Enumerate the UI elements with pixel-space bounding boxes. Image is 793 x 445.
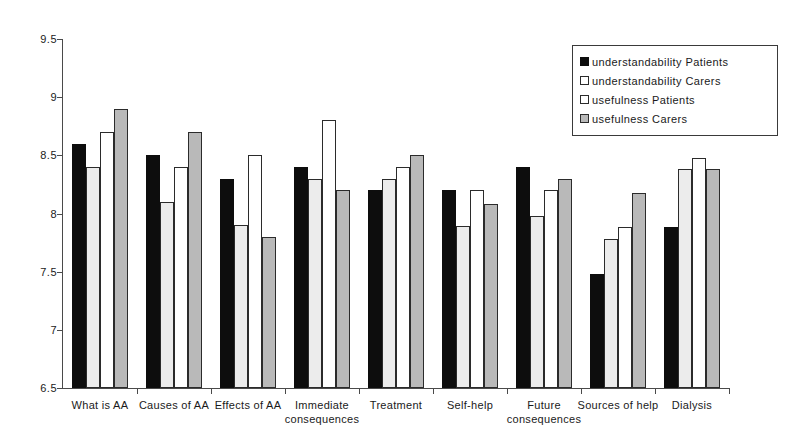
bar xyxy=(442,190,456,388)
legend-label: usefulness Patients xyxy=(592,94,695,106)
bar xyxy=(530,216,544,388)
legend-label: usefulness Carers xyxy=(592,113,687,125)
bar xyxy=(188,132,202,388)
legend-item: understandability Patients xyxy=(580,52,770,71)
legend-item: usefulness Patients xyxy=(580,90,770,109)
bar xyxy=(86,167,100,388)
x-axis-tick xyxy=(729,388,730,394)
legend-swatch-icon xyxy=(580,114,589,123)
chart-legend: understandability Patients understandabi… xyxy=(572,45,778,136)
y-axis-tick xyxy=(57,97,63,98)
bar xyxy=(100,132,114,388)
y-axis-tick-label: 8 xyxy=(50,208,57,220)
bar xyxy=(322,120,336,388)
bar xyxy=(382,179,396,388)
bar xyxy=(174,167,188,388)
y-axis-tick-label: 8.5 xyxy=(40,149,57,161)
y-axis-tick xyxy=(57,272,63,273)
bar xyxy=(632,193,646,388)
x-axis-tick xyxy=(285,388,286,394)
bar-group xyxy=(146,39,202,388)
y-axis-tick-label: 9.5 xyxy=(40,33,57,45)
bar-chart: 9.598.587.576.5 understandability Patien… xyxy=(0,0,793,445)
bar xyxy=(484,204,498,388)
bar xyxy=(368,190,382,388)
bar-group xyxy=(72,39,128,388)
x-axis-tick xyxy=(137,388,138,394)
bar xyxy=(160,202,174,388)
x-axis-tick xyxy=(359,388,360,394)
bar xyxy=(294,167,308,388)
bar xyxy=(678,169,692,388)
bar xyxy=(220,179,234,388)
bar xyxy=(146,155,160,388)
bar xyxy=(234,225,248,388)
bar xyxy=(692,158,706,388)
bar-group xyxy=(294,39,350,388)
bar xyxy=(72,144,86,388)
bar xyxy=(590,274,604,388)
bar-group xyxy=(368,39,424,388)
bar xyxy=(336,190,350,388)
x-axis-tick xyxy=(433,388,434,394)
bar-group xyxy=(516,39,572,388)
bar xyxy=(618,227,632,388)
bar xyxy=(706,169,720,388)
y-axis-tick-label: 9 xyxy=(50,91,57,103)
bar xyxy=(308,179,322,388)
legend-item: understandability Carers xyxy=(580,71,770,90)
bar xyxy=(470,190,484,388)
x-axis-line xyxy=(62,388,729,389)
bar xyxy=(396,167,410,388)
bar-group xyxy=(442,39,498,388)
bar xyxy=(114,109,128,388)
x-axis-tick xyxy=(581,388,582,394)
bar xyxy=(410,155,424,388)
bar xyxy=(664,227,678,388)
y-axis-tick xyxy=(57,155,63,156)
x-axis-tick xyxy=(211,388,212,394)
bar xyxy=(456,226,470,388)
legend-item: usefulness Carers xyxy=(580,109,770,128)
bar xyxy=(544,190,558,388)
bar xyxy=(558,179,572,388)
bar xyxy=(604,239,618,388)
legend-label: understandability Patients xyxy=(592,56,728,68)
bar-group xyxy=(220,39,276,388)
y-axis-tick xyxy=(57,214,63,215)
legend-swatch-icon xyxy=(580,95,589,104)
bar xyxy=(516,167,530,388)
y-axis-tick xyxy=(57,39,63,40)
y-axis-tick xyxy=(57,330,63,331)
y-axis-tick-label: 6.5 xyxy=(40,382,57,394)
x-axis-category-label: Dialysis xyxy=(649,398,735,412)
x-axis-tick xyxy=(655,388,656,394)
x-axis-tick xyxy=(507,388,508,394)
legend-swatch-icon xyxy=(580,76,589,85)
bar xyxy=(262,237,276,388)
y-axis-tick xyxy=(57,388,63,389)
legend-swatch-icon xyxy=(580,57,589,66)
y-axis-tick-label: 7 xyxy=(50,324,57,336)
legend-label: understandability Carers xyxy=(592,75,721,87)
y-axis-tick-label: 7.5 xyxy=(40,266,57,278)
bar xyxy=(248,155,262,388)
